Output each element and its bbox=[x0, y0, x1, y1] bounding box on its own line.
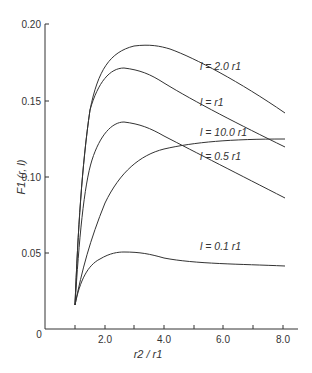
curve-l-2.0r1 bbox=[75, 45, 285, 305]
x-tick-2.0: 2.0 bbox=[98, 334, 112, 345]
x-tick-6.0: 6.0 bbox=[216, 334, 230, 345]
y-axis-label: F1 (r, l) bbox=[15, 159, 27, 194]
y-tick-0.15: 0.15 bbox=[22, 96, 42, 107]
label-l-10.0r1: l = 10.0 r1 bbox=[200, 126, 247, 138]
chart-svg: 0.20 0.15 0.10 0.05 0 2.0 4.0 6.0 8.0 r2… bbox=[0, 0, 312, 373]
y-tick-0.20: 0.20 bbox=[22, 19, 42, 30]
label-l-2.0r1: l = 2.0 r1 bbox=[200, 60, 241, 72]
curve-l-0.1r1 bbox=[75, 252, 285, 305]
curves bbox=[75, 45, 285, 305]
origin-label: 0 bbox=[36, 329, 42, 340]
y-tick-0.05: 0.05 bbox=[22, 248, 42, 259]
curve-l-10.0r1 bbox=[75, 122, 285, 305]
x-tick-8.0: 8.0 bbox=[276, 334, 290, 345]
curve-l-r1 bbox=[75, 68, 285, 305]
label-l-0.1r1: l = 0.1 r1 bbox=[200, 240, 241, 252]
label-l-r1: l = r1 bbox=[200, 96, 224, 108]
curve-l-0.5r1 bbox=[75, 139, 285, 305]
chart-container: 0.20 0.15 0.10 0.05 0 2.0 4.0 6.0 8.0 r2… bbox=[0, 0, 312, 373]
x-tick-4.0: 4.0 bbox=[157, 334, 171, 345]
label-l-0.5r1: l = 0.5 r1 bbox=[200, 150, 241, 162]
x-axis-label: r2 / r1 bbox=[134, 348, 163, 360]
